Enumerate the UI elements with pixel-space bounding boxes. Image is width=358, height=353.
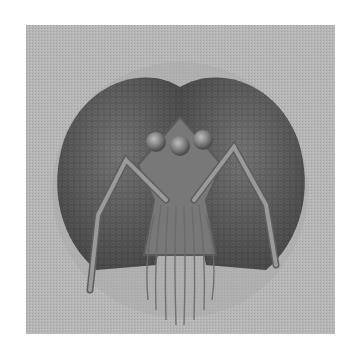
ocellus-left — [146, 132, 166, 152]
ocellus-center — [170, 136, 190, 156]
ocellus-right — [193, 130, 213, 150]
insect-head-drawing — [26, 25, 335, 334]
insect-head-illustration — [26, 25, 335, 334]
